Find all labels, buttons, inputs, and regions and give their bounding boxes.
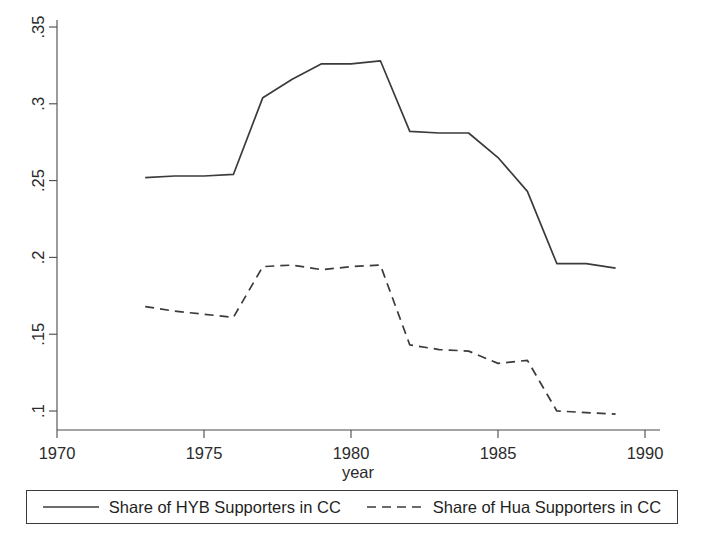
- x-tick-label: 1980: [333, 444, 370, 462]
- x-axis-tick-labels: 19701975198019851990: [39, 444, 664, 462]
- chart-legend: Share of HYB Supporters in CC Share of H…: [26, 490, 678, 524]
- x-tick-label: 1985: [480, 444, 517, 462]
- x-tick-label: 1970: [39, 444, 76, 462]
- legend-swatch-dashed: [367, 502, 423, 512]
- legend-entry-hyb: Share of HYB Supporters in CC: [43, 498, 341, 517]
- series-line-hyb: [145, 61, 615, 268]
- y-tick-label: .3: [29, 97, 47, 111]
- legend-swatch-solid: [43, 502, 99, 512]
- x-tick-label: 1975: [186, 444, 223, 462]
- data-series-group: [145, 61, 615, 414]
- y-axis-ticks: [49, 27, 57, 411]
- legend-entry-hua: Share of Hua Supporters in CC: [367, 498, 661, 517]
- legend-label-hua: Share of Hua Supporters in CC: [433, 498, 661, 517]
- y-tick-label: .2: [29, 251, 47, 265]
- y-tick-label: .35: [29, 16, 47, 39]
- legend-label-hyb: Share of HYB Supporters in CC: [109, 498, 341, 517]
- y-tick-label: .15: [29, 323, 47, 346]
- line-chart-plot: .1.15.2.25.3.35 19701975198019851990 yea…: [0, 0, 708, 538]
- y-tick-label: .25: [29, 169, 47, 192]
- series-line-hua: [145, 265, 615, 414]
- x-axis-ticks: [57, 430, 645, 438]
- y-axis-tick-labels: .1.15.2.25.3.35: [29, 16, 47, 418]
- x-tick-label: 1990: [627, 444, 664, 462]
- y-tick-label: .1: [29, 404, 47, 418]
- chart-figure: .1.15.2.25.3.35 19701975198019851990 yea…: [0, 0, 708, 538]
- x-axis-title: year: [342, 463, 375, 481]
